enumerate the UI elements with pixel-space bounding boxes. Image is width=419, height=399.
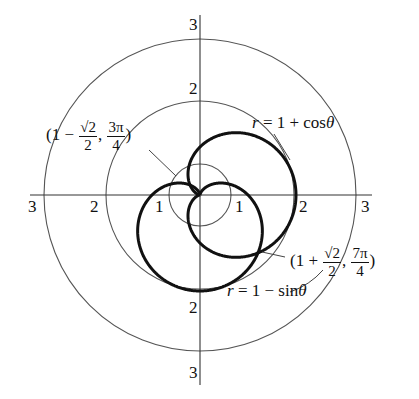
- leader-point-3pi4: [149, 150, 176, 176]
- axis-label-right-3: 3: [361, 198, 370, 215]
- axis-label-top-3: 3: [189, 16, 198, 33]
- axis-label-right-1: 1: [235, 198, 244, 215]
- equation-r-1-minus-sin: r = 1 − sinθ: [227, 282, 307, 299]
- axis-label-bottom-2: 2: [189, 299, 198, 316]
- point-label-7pi-4: (1 + √22, 7π4): [290, 246, 375, 279]
- axis-label-right-2: 2: [299, 198, 308, 215]
- polar-plot: [0, 0, 419, 399]
- axes: [30, 15, 372, 385]
- axis-label-bottom-3: 3: [189, 364, 198, 381]
- equation-r-1-plus-cos: r = 1 + cosθ: [252, 114, 334, 131]
- axis-label-left-1: 1: [155, 198, 164, 215]
- axis-label-top-2: 2: [189, 80, 198, 97]
- point-label-3pi-4: (1 − √22, 3π4): [46, 120, 131, 153]
- axis-label-left-2: 2: [90, 198, 99, 215]
- axis-label-left-3: 3: [28, 198, 37, 215]
